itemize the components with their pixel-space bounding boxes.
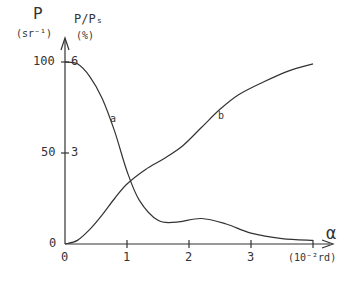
y-tick-label-right: 3 — [71, 145, 78, 159]
series-a-line — [65, 62, 313, 240]
y-right-unit: (%) — [76, 30, 94, 41]
y-right-symbol: P/Pₛ — [74, 12, 103, 26]
y-tick-label-left: 0 — [49, 236, 56, 250]
x-tick-label: 3 — [247, 250, 254, 264]
x-axis-unit: (10⁻²rd) — [288, 252, 336, 263]
x-tick-label: 1 — [123, 250, 130, 264]
y-left-symbol: P — [33, 4, 43, 23]
y-tick-label-left: 50 — [41, 145, 55, 159]
series-b-line — [65, 64, 313, 244]
x-axis-label: α — [326, 223, 336, 243]
y-axis — [61, 38, 69, 244]
series-lines — [65, 62, 313, 244]
x-tick-label: 0 — [61, 250, 68, 264]
x-axis — [65, 240, 333, 248]
x-tick-label: 2 — [185, 250, 192, 264]
y-left-unit: (sr⁻¹) — [16, 28, 52, 39]
series-a-label: a — [110, 113, 116, 124]
series-b-label: b — [218, 110, 224, 121]
y-tick-label-left: 100 — [33, 54, 55, 68]
y-tick-label-right: 6 — [71, 54, 78, 68]
